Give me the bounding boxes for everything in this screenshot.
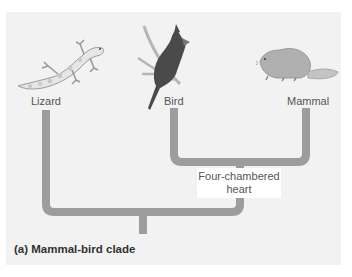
- shared-character-label: Four-chambered heart: [197, 168, 281, 198]
- figure-caption: (a) Mammal-bird clade: [14, 243, 135, 255]
- character-line-1: Four-chambered: [198, 170, 279, 183]
- cladogram-tree: [0, 0, 352, 277]
- bird-mammal-branch: [174, 108, 306, 162]
- character-line-2: heart: [198, 183, 279, 196]
